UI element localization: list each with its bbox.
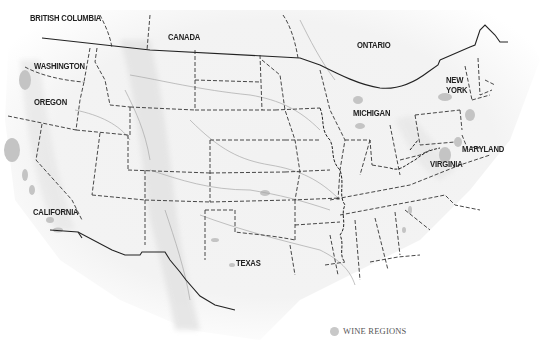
label-canada: CANADA	[168, 32, 200, 42]
label-oregon: OREGON	[34, 97, 67, 107]
label-california: CALIFORNIA	[33, 207, 78, 217]
label-maryland: MARYLAND	[462, 144, 504, 154]
legend-label: WINE REGIONS	[343, 326, 407, 336]
label-ontario: ONTARIO	[357, 40, 391, 50]
label-michigan: MICHIGAN	[353, 108, 390, 118]
label-virginia: VIRGINIA	[430, 159, 463, 169]
us-wine-regions-map	[0, 0, 546, 351]
label-british-columbia: BRITISH COLUMBIA	[30, 13, 101, 23]
label-new-york-line2: YORK	[446, 85, 467, 95]
label-new-york-line1: NEW	[446, 75, 463, 85]
label-texas: TEXAS	[236, 258, 261, 268]
land-shading	[5, 10, 540, 340]
label-washington: WASHINGTON	[34, 61, 85, 71]
wine-region-swatch-icon	[330, 327, 339, 336]
map-legend: WINE REGIONS	[330, 326, 407, 336]
